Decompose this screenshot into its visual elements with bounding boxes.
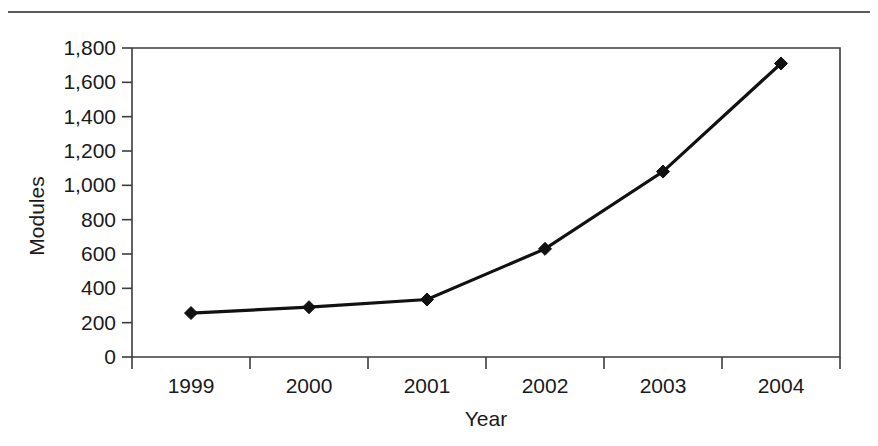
x-tick-label: 2004 bbox=[758, 374, 805, 397]
x-tick-label: 2001 bbox=[404, 374, 451, 397]
y-tick-label: 400 bbox=[81, 276, 116, 299]
y-tick-label: 800 bbox=[81, 208, 116, 231]
series-line-modules bbox=[191, 63, 781, 313]
series-markers bbox=[185, 57, 788, 320]
y-tick-label: 1,200 bbox=[63, 139, 116, 162]
y-tick-label: 1,000 bbox=[63, 173, 116, 196]
y-tick-label: 1,800 bbox=[63, 36, 116, 59]
y-tick-label: 0 bbox=[104, 345, 116, 368]
y-tick-label: 1,600 bbox=[63, 70, 116, 93]
x-tick-label: 2000 bbox=[286, 374, 333, 397]
y-axis-title: Modules bbox=[25, 176, 48, 255]
y-axis-ticks bbox=[122, 48, 132, 357]
chart-page: 02004006008001,0001,2001,4001,6001,800 1… bbox=[0, 0, 878, 446]
y-tick-label: 200 bbox=[81, 311, 116, 334]
x-tick-label: 2003 bbox=[640, 374, 687, 397]
data-point-marker bbox=[303, 301, 316, 314]
y-tick-label: 1,400 bbox=[63, 105, 116, 128]
x-tick-label: 2002 bbox=[522, 374, 569, 397]
data-point-marker bbox=[185, 307, 198, 320]
y-axis-tick-labels: 02004006008001,0001,2001,4001,6001,800 bbox=[63, 36, 116, 368]
x-tick-label: 1999 bbox=[168, 374, 215, 397]
x-axis-title: Year bbox=[465, 407, 507, 430]
chart-canvas: 02004006008001,0001,2001,4001,6001,800 1… bbox=[0, 0, 878, 446]
x-axis-tick-labels: 199920002001200220032004 bbox=[168, 374, 805, 397]
line-chart-figure: 02004006008001,0001,2001,4001,6001,800 1… bbox=[0, 0, 878, 446]
x-axis-ticks bbox=[132, 357, 840, 369]
y-tick-label: 600 bbox=[81, 242, 116, 265]
data-point-marker bbox=[421, 293, 434, 306]
